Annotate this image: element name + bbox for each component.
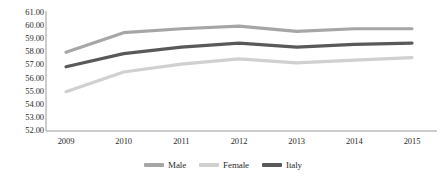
x-axis-tick-label: 2012 — [231, 136, 248, 146]
chart-legend: MaleFemaleItaly — [0, 155, 446, 175]
x-axis-tick-label: 2010 — [115, 136, 132, 146]
legend-item-male[interactable]: Male — [144, 160, 186, 170]
series-line-male — [66, 26, 412, 52]
x-axis-tick-label: 2015 — [404, 136, 421, 146]
legend-swatch-icon — [144, 163, 164, 166]
x-axis-tick-label: 2009 — [58, 136, 75, 146]
x-axis-tick-label: 2013 — [288, 136, 305, 146]
x-axis-tick-label: 2014 — [346, 136, 363, 146]
x-axis-tick-label: 2011 — [173, 136, 189, 146]
series-line-italy — [66, 43, 412, 67]
legend-label: Male — [168, 160, 186, 170]
legend-label: Italy — [286, 160, 302, 170]
legend-swatch-icon — [199, 163, 219, 166]
legend-item-female[interactable]: Female — [199, 160, 249, 170]
series-lines — [66, 26, 412, 92]
legend-item-italy[interactable]: Italy — [262, 160, 302, 170]
legend-label: Female — [223, 160, 249, 170]
series-line-female — [66, 58, 412, 92]
legend-swatch-icon — [262, 163, 282, 166]
line-chart: 61.0060.0059.0058.0057.0056.0055.0054.00… — [0, 0, 446, 183]
